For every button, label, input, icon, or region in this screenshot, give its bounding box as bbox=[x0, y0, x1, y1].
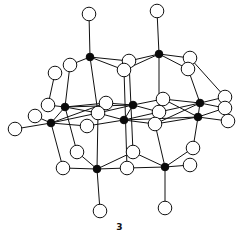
ligand-atom bbox=[148, 117, 162, 131]
ligand-atom bbox=[186, 141, 200, 155]
ligand-atom bbox=[156, 92, 170, 106]
ligand-atom bbox=[63, 58, 77, 72]
ligand-atom bbox=[126, 145, 140, 159]
metal-atom bbox=[120, 116, 128, 124]
metal-atom bbox=[196, 99, 204, 107]
bond bbox=[97, 113, 98, 169]
ligand-atom bbox=[93, 204, 107, 218]
ligand-atom bbox=[80, 119, 94, 133]
figure-label: 3 bbox=[0, 222, 239, 232]
ligand-atom bbox=[48, 66, 62, 80]
ligand-atom bbox=[120, 161, 134, 175]
metal-atom bbox=[129, 101, 137, 109]
ligand-atom bbox=[181, 62, 195, 76]
metal-atom bbox=[161, 163, 169, 171]
ligand-atom bbox=[82, 7, 96, 21]
ligand-atom bbox=[28, 109, 42, 123]
metal-atom bbox=[86, 53, 94, 61]
bond bbox=[190, 58, 225, 97]
molecular-structure-diagram bbox=[0, 0, 239, 237]
ligand-atom bbox=[8, 122, 22, 136]
ligand-atom bbox=[117, 63, 131, 77]
ligand-atom bbox=[70, 145, 84, 159]
metal-atom bbox=[61, 103, 69, 111]
ligand-atom bbox=[221, 114, 235, 128]
metal-atom bbox=[155, 50, 163, 58]
metal-atom bbox=[194, 113, 202, 121]
metal-atom bbox=[47, 119, 55, 127]
ligand-atom bbox=[150, 4, 164, 18]
ligand-atom bbox=[56, 161, 70, 175]
ligand-atom bbox=[91, 106, 105, 120]
ligand-atom bbox=[41, 98, 55, 112]
ligand-atom bbox=[218, 101, 232, 115]
ligand-atom bbox=[158, 201, 172, 215]
metal-atom bbox=[93, 165, 101, 173]
atoms bbox=[8, 4, 235, 218]
ligand-atom bbox=[183, 158, 197, 172]
